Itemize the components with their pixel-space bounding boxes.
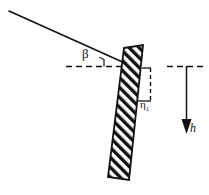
diagram-canvas	[0, 0, 209, 195]
beta-angle-arc	[100, 57, 105, 66]
h-depth-label: h	[190, 122, 196, 134]
beta-angle-label: β	[82, 47, 89, 60]
eta-subscript: 1	[146, 105, 150, 113]
physics-diagram: β η1 h	[0, 0, 209, 195]
hatched-slab	[95, 35, 160, 190]
incline-line	[9, 11, 127, 64]
eta-thickness-label: η1	[140, 99, 149, 113]
